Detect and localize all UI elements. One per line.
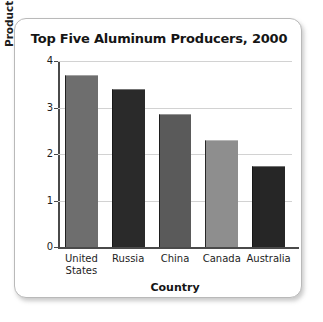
chart-card: Top Five Aluminum Producers, 2000 Produc… bbox=[14, 18, 302, 298]
x-axis-title: Country bbox=[58, 281, 292, 294]
x-axis-tick-labels: UnitedStatesRussiaChinaCanadaAustralia bbox=[58, 251, 299, 285]
bar-china bbox=[159, 114, 192, 247]
x-axis-tick-label: Russia bbox=[105, 253, 152, 265]
y-axis-title-bold: Production bbox=[3, 0, 15, 47]
x-axis-tick-label-line: Russia bbox=[105, 253, 152, 265]
x-axis-tick-label-line: United bbox=[58, 253, 105, 265]
x-axis-tick-label-line: Australia bbox=[245, 253, 292, 265]
chart-title: Top Five Aluminum Producers, 2000 bbox=[15, 31, 303, 46]
x-axis-tick-label-line: China bbox=[152, 253, 199, 265]
y-axis-tick-mark bbox=[54, 201, 58, 202]
bar-russia bbox=[112, 89, 145, 247]
plot-area: 01234 bbox=[58, 61, 292, 247]
bar-united-states bbox=[65, 75, 98, 247]
x-axis-tick-label: Canada bbox=[198, 253, 245, 265]
y-axis-tick-mark bbox=[54, 61, 58, 62]
y-axis-title: Production (in thousand metric tons) bbox=[3, 0, 15, 47]
x-axis-tick-label: UnitedStates bbox=[58, 253, 105, 276]
y-axis-tick-label: 2 bbox=[47, 149, 53, 159]
x-axis-tick-label-line: Canada bbox=[198, 253, 245, 265]
bar-australia bbox=[252, 166, 285, 247]
y-axis-tick-mark bbox=[54, 108, 58, 109]
y-axis-tick-label: 1 bbox=[47, 196, 53, 206]
y-axis-tick-label: 0 bbox=[47, 242, 53, 252]
y-axis-tick-label: 4 bbox=[47, 56, 53, 66]
x-axis-tick-label: Australia bbox=[245, 253, 292, 265]
y-axis-tick-mark bbox=[54, 154, 58, 155]
x-axis-tick-label: China bbox=[152, 253, 199, 265]
y-axis-tick-label: 3 bbox=[47, 103, 53, 113]
y-axis-tick-mark bbox=[54, 247, 58, 248]
bar-canada bbox=[205, 140, 238, 247]
x-axis-line bbox=[58, 247, 299, 249]
x-axis-tick-label-line: States bbox=[58, 265, 105, 277]
gridline bbox=[58, 61, 292, 62]
